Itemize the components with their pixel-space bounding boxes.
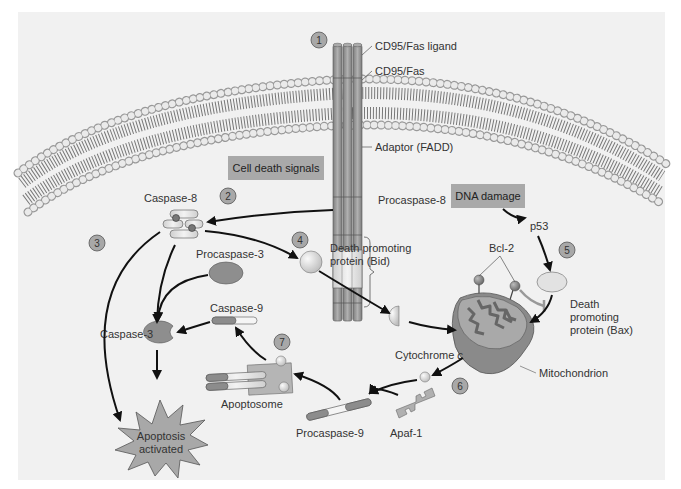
step-3-badge: 3 <box>89 235 105 251</box>
svg-text:Apoptosis: Apoptosis <box>137 430 186 442</box>
svg-text:DNA damage: DNA damage <box>455 190 520 202</box>
caspase-9-shape <box>212 317 257 324</box>
label-bid-line2: protein (Bid) <box>330 255 390 267</box>
label-bax-line2: promoting <box>570 311 619 323</box>
label-procaspase-8: Procaspase-8 <box>378 194 446 206</box>
svg-text:activated: activated <box>139 443 183 455</box>
label-bax-line1: Death <box>570 298 599 310</box>
label-procaspase-9: Procaspase-9 <box>296 427 364 439</box>
procaspase-3-shape <box>209 262 243 284</box>
svg-text:6: 6 <box>457 381 463 392</box>
step-1-badge: 1 <box>311 32 327 48</box>
label-bid-line1: Death promoting <box>330 242 411 254</box>
bid-protein <box>300 251 322 273</box>
label-adaptor-fadd: Adaptor (FADD) <box>375 141 453 153</box>
cytochrome-c <box>420 372 430 382</box>
svg-text:7: 7 <box>279 337 285 348</box>
label-apoptosome: Apoptosome <box>221 398 283 410</box>
label-caspase-3: Caspase-3 <box>100 328 153 340</box>
svg-text:Cell death signals: Cell death signals <box>233 162 320 174</box>
svg-text:2: 2 <box>225 191 231 202</box>
label-cytochrome-c: Cytochrome c <box>395 349 463 361</box>
label-mitochondrion: Mitochondrion <box>539 367 608 379</box>
step-7-badge: 7 <box>274 334 290 350</box>
label-apaf-1: Apaf-1 <box>390 427 422 439</box>
step-2-badge: 2 <box>220 188 236 204</box>
label-caspase-8: Caspase-8 <box>144 192 197 204</box>
step-6-badge: 6 <box>452 378 468 394</box>
label-cd95-ligand: CD95/Fas ligand <box>375 40 457 52</box>
label-cd95-fas: CD95/Fas <box>375 65 425 77</box>
svg-text:5: 5 <box>564 245 570 256</box>
step-5-badge: 5 <box>559 242 575 258</box>
cell-death-signals-box: Cell death signals <box>228 156 324 180</box>
svg-text:1: 1 <box>316 35 322 46</box>
apoptosis-pathway-diagram: CD95/Fas ligand CD95/Fas Adaptor (FADD) … <box>0 0 681 489</box>
dna-damage-box: DNA damage <box>451 184 525 208</box>
bax-protein <box>537 272 567 292</box>
label-p53: p53 <box>530 220 548 232</box>
label-bax-line3: protein (Bax) <box>570 324 633 336</box>
label-bcl-2: Bcl-2 <box>489 242 514 254</box>
svg-text:3: 3 <box>94 238 100 249</box>
svg-text:4: 4 <box>297 235 303 246</box>
label-procaspase-3: Procaspase-3 <box>196 248 264 260</box>
label-caspase-9: Caspase-9 <box>210 302 263 314</box>
step-4-badge: 4 <box>292 232 308 248</box>
